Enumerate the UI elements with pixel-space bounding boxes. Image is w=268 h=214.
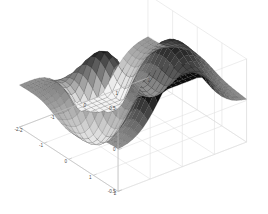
y-tick-label: 1 <box>89 175 92 180</box>
z-tick-label: 0.5 <box>109 106 116 111</box>
x-tick-label: 2 <box>148 78 151 83</box>
y-tick-label: -1 <box>39 143 44 148</box>
x-tick-label: 1 <box>116 91 119 96</box>
y-tick-label: 2 <box>114 191 117 196</box>
y-tick-mark <box>44 142 47 143</box>
surface-mesh <box>19 37 246 149</box>
figure-panel: 0.50-0.5210-1-2-2-1012 <box>0 0 268 214</box>
y-tick-label: 0 <box>64 159 67 164</box>
z-tick-label: 0 <box>113 147 116 152</box>
y-tick-mark <box>93 174 96 175</box>
x-tick-label: 0 <box>83 103 86 108</box>
surface-plot: 0.50-0.5210-1-2-2-1012 <box>0 0 268 214</box>
x-tick-label: -1 <box>51 115 56 120</box>
y-tick-mark <box>69 158 72 159</box>
x-tick-label: -2 <box>18 128 23 133</box>
y-tick-mark <box>118 190 121 191</box>
